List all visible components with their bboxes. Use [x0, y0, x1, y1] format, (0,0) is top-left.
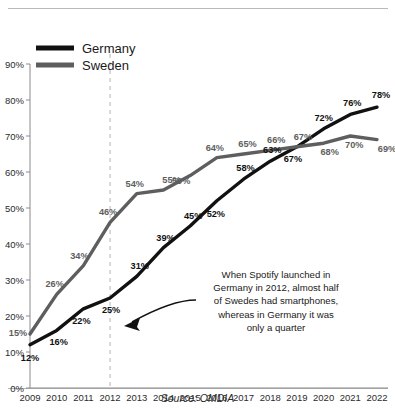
annotation-line: only a quarter — [247, 322, 306, 333]
data-label: 63% — [263, 145, 281, 155]
data-label: 58% — [236, 163, 254, 173]
y-tick-label: 20% — [5, 311, 25, 322]
smartphone-penetration-chart: 0%10%20%30%40%50%60%70%80%90% 2009201020… — [0, 0, 395, 409]
y-tick-label: 50% — [5, 203, 25, 214]
legend-label-sweden: Sweden — [82, 58, 129, 73]
data-label: 65% — [238, 139, 256, 149]
data-label: 67% — [294, 132, 312, 142]
data-label: 25% — [102, 305, 120, 315]
data-label: 15% — [9, 328, 27, 338]
data-label: 67% — [284, 154, 302, 164]
data-label: 26% — [45, 279, 63, 289]
data-label: 45% — [184, 211, 202, 221]
source-caption: Source: OMDIA — [0, 392, 395, 404]
data-label: 78% — [372, 90, 390, 100]
data-label: 59% — [172, 176, 190, 186]
y-tick-label: 70% — [5, 131, 25, 142]
y-tick-label: 40% — [5, 239, 25, 250]
annotation-line: of Swedes had smartphones, — [214, 295, 338, 306]
annotation-line: Germany in 2012, almost half — [213, 282, 339, 293]
chart-canvas: 0%10%20%30%40%50%60%70%80%90% 2009201020… — [0, 0, 395, 409]
y-tick-label: 90% — [5, 59, 25, 70]
y-tick-label: 30% — [5, 275, 25, 286]
data-label: 68% — [320, 147, 338, 157]
data-label: 66% — [267, 135, 285, 145]
legend: Germany Sweden — [36, 41, 136, 73]
data-label: 54% — [126, 179, 144, 189]
data-label: 76% — [343, 98, 361, 108]
data-label: 12% — [21, 353, 39, 363]
data-label: 52% — [207, 209, 225, 219]
y-tick-label: 60% — [5, 167, 25, 178]
annotation-line: whereas in Germany it was — [217, 309, 334, 320]
data-label: 64% — [206, 143, 224, 153]
legend-label-germany: Germany — [82, 41, 136, 56]
data-label: 70% — [345, 140, 363, 150]
y-axis: 0%10%20%30%40%50%60%70%80%90% — [5, 59, 30, 394]
data-label: 31% — [131, 261, 149, 271]
data-label: 46% — [99, 207, 117, 217]
data-label: 34% — [70, 251, 88, 261]
data-label: 69% — [378, 144, 395, 154]
data-label: 22% — [72, 316, 90, 326]
annotation-callout: When Spotify launched inGermany in 2012,… — [124, 269, 339, 333]
data-label: 39% — [156, 233, 174, 243]
data-label: 16% — [49, 337, 67, 347]
annotation-line: When Spotify launched in — [222, 269, 331, 280]
y-tick-label: 80% — [5, 95, 25, 106]
data-label: 72% — [314, 113, 332, 123]
